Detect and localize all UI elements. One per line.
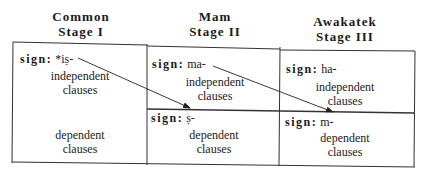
clause-word: clauses: [285, 94, 405, 108]
top-border-col2: [147, 46, 280, 49]
sign-common: sign: *iṣ-: [20, 52, 73, 66]
clause-type: independent: [20, 69, 140, 83]
clause-word: clauses: [155, 89, 275, 103]
clause-word: clauses: [154, 142, 274, 156]
clause-type: independent: [155, 75, 275, 89]
right-border: [414, 51, 415, 167]
clause-type: dependent: [20, 128, 140, 142]
sign-morpheme: *iṣ-: [55, 52, 73, 66]
independent-clauses-common: independent clauses: [20, 69, 140, 97]
left-border: [12, 42, 13, 163]
divider-col2-col3: [279, 47, 280, 166]
clause-type: independent: [285, 80, 405, 94]
sign-morpheme: m-: [320, 115, 333, 129]
sign-morpheme: ha-: [321, 62, 336, 76]
sign-awakatek-lower: sign: m-: [285, 115, 334, 129]
independent-clauses-mam: independent clauses: [155, 75, 275, 103]
sign-label: sign:: [285, 115, 317, 129]
dependent-clauses-common: dependent clauses: [20, 128, 140, 156]
sign-mam-upper: sign: ma-: [152, 57, 206, 71]
sign-mam-lower: sign: ṣ-: [151, 111, 195, 125]
sign-morpheme: ṣ-: [186, 111, 195, 125]
sign-awakatek-upper: sign: ha-: [286, 62, 337, 76]
sign-label: sign:: [286, 62, 318, 76]
sign-label: sign:: [20, 52, 52, 66]
top-border-col1: [13, 42, 147, 45]
clause-word: clauses: [20, 83, 140, 97]
clause-word: clauses: [20, 142, 140, 156]
dependent-clauses-awakatek: dependent clauses: [285, 131, 405, 159]
top-border-col3: [280, 50, 415, 51]
sign-label: sign:: [152, 57, 184, 71]
sign-label: sign:: [151, 111, 183, 125]
clause-type: dependent: [154, 128, 274, 142]
clause-type: dependent: [285, 131, 405, 145]
dependent-clauses-mam: dependent clauses: [154, 128, 274, 156]
clause-word: clauses: [285, 145, 405, 159]
independent-clauses-awakatek: independent clauses: [285, 80, 405, 108]
bottom-border: [12, 162, 415, 167]
sign-morpheme: ma-: [187, 57, 206, 71]
